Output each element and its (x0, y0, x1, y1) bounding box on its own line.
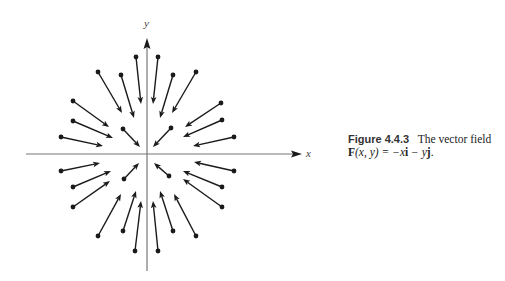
vector-arrow (172, 70, 198, 113)
vector-arrow (151, 55, 160, 104)
base-point-dot-icon (96, 234, 101, 239)
vector-arrow (185, 101, 223, 127)
vector-arrow (96, 194, 121, 238)
base-point-dot-icon (232, 135, 237, 140)
vector-arrow (183, 171, 224, 189)
vector-shaft (154, 206, 158, 251)
vector-shaft (135, 206, 140, 251)
vector-shaft (124, 167, 135, 179)
base-point-dot-icon (59, 135, 64, 140)
base-point-dot-icon (71, 185, 76, 190)
vector-arrow (183, 179, 224, 209)
vector-shaft (61, 164, 95, 171)
base-point-dot-icon (194, 234, 199, 239)
vector-arrow (193, 135, 236, 148)
vector-arrow (134, 55, 143, 104)
base-point-dot-icon (167, 174, 172, 179)
base-point-dot-icon (171, 73, 176, 78)
arrowhead-icon (103, 181, 110, 187)
vector-shaft (157, 128, 171, 143)
vector-arrow (153, 126, 173, 147)
vector-shaft (121, 75, 132, 113)
base-point-dot-icon (220, 205, 225, 210)
vector-arrow (174, 194, 198, 238)
base-point-dot-icon (169, 126, 174, 131)
vector-shaft (154, 57, 158, 99)
base-point-dot-icon (156, 55, 161, 60)
figure-title: The vector field (418, 133, 491, 145)
base-point-dot-icon (59, 169, 64, 174)
vector-shaft (98, 72, 119, 108)
vector-shaft (123, 129, 136, 143)
arrowhead-icon (102, 121, 109, 127)
vector-shaft (177, 199, 196, 236)
vector-shaft (199, 163, 234, 171)
base-point-dot-icon (71, 119, 76, 124)
formula-args: (x, y) = −x (355, 146, 405, 158)
axes (26, 38, 302, 271)
base-point-dot-icon (71, 205, 76, 210)
figure-formula: F(x, y) = −xi − yj. (348, 146, 505, 159)
vector-shaft (190, 103, 221, 124)
base-point-dot-icon (119, 73, 124, 78)
vector-arrow (96, 70, 122, 113)
base-point-dot-icon (220, 185, 225, 190)
vector-shaft (61, 137, 98, 145)
vector-arrow (133, 201, 143, 253)
vector-arrow (194, 161, 236, 174)
base-point-dot-icon (121, 229, 126, 234)
base-point-dot-icon (71, 99, 76, 104)
vector-arrow (59, 135, 103, 148)
vector-shaft (73, 173, 106, 187)
base-point-dot-icon (171, 229, 176, 234)
figure-number: Figure 4.4.3 (348, 133, 409, 145)
vector-arrow (71, 119, 113, 138)
base-point-dot-icon (219, 101, 224, 106)
vector-arrow (59, 162, 100, 174)
base-point-dot-icon (232, 169, 237, 174)
vector-shaft (188, 173, 222, 187)
vector-shaft (73, 101, 105, 124)
formula-end: . (431, 146, 434, 158)
base-point-dot-icon (156, 249, 161, 254)
vector-arrow (151, 201, 160, 253)
vector-shaft (187, 182, 222, 207)
base-point-dot-icon (220, 118, 225, 123)
vector-arrow (183, 118, 224, 137)
base-point-dot-icon (121, 127, 126, 132)
figure-caption: Figure 4.4.3 The vector field F(x, y) = … (348, 133, 505, 158)
base-point-dot-icon (96, 70, 101, 75)
vector-arrow (121, 127, 140, 147)
vector-shaft (123, 196, 134, 231)
base-point-dot-icon (133, 249, 138, 254)
base-point-dot-icon (194, 70, 199, 75)
vector-arrow (71, 171, 111, 189)
vector-arrow (121, 191, 137, 233)
x-axis-label: x (306, 147, 311, 159)
arrowhead-icon (183, 179, 190, 185)
vector-arrow (122, 163, 139, 181)
vector-shaft (198, 137, 234, 145)
vector-shaft (98, 199, 118, 236)
arrowhead-icon (185, 121, 192, 127)
vector-arrow (160, 191, 176, 233)
formula-minus-y: − y (408, 146, 427, 158)
base-point-dot-icon (134, 55, 139, 60)
base-point-dot-icon (122, 177, 127, 182)
vector-arrow (154, 163, 171, 178)
formula-F: F (348, 146, 355, 158)
y-axis-label: y (144, 17, 149, 29)
vector-shaft (73, 184, 105, 207)
vector-shaft (175, 72, 196, 108)
vector-shaft (136, 57, 140, 99)
vector-shaft (162, 196, 173, 231)
vector-shaft (162, 75, 173, 113)
